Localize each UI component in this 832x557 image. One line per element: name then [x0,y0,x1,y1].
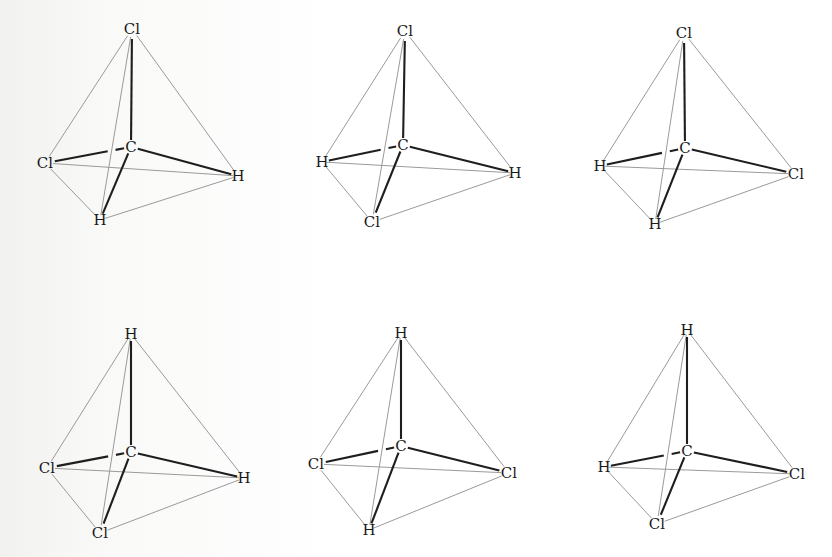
bond-c-left-front [326,451,378,462]
bond-c-top [131,39,132,140]
bond-c-right [692,150,786,172]
atom-label-top: Cl [124,20,140,38]
atom-label-center: C [397,136,408,154]
edge-top-bottom [101,37,131,215]
bond-c-left-front [55,151,108,161]
molecule-2: ClHHClC [315,22,521,231]
atom-label-left: H [315,153,328,171]
bond-c-top [684,43,685,141]
atom-label-left: Cl [39,459,55,477]
bond-c-right [408,448,500,471]
tetrahedra-diagram: ClClHHCClHHClCClHClHCHClHClCHClClHCHHClC… [0,0,832,557]
atom-label-center: C [681,442,692,460]
bond-c-left-back [386,447,394,449]
atom-label-left: H [593,157,606,175]
edge-top-left [51,338,128,461]
bond-c-bottom [661,457,685,514]
atom-label-right: H [237,469,250,487]
edge-top-right [689,39,791,167]
edge-top-bottom [101,339,130,525]
atom-label-left: Cl [308,455,324,473]
atom-label-center: C [679,139,690,157]
edge-left-bottom [321,470,366,526]
atom-label-bottom: Cl [92,524,108,542]
edge-left-bottom [52,474,95,527]
bond-c-bottom [104,459,129,524]
atom-label-right: H [231,167,244,185]
molecule-4: HClHClC [39,325,251,542]
edge-right-bottom [374,476,502,528]
atom-label-left: Cl [37,154,53,172]
atom-label-left: H [597,458,610,476]
edge-right-bottom [380,175,511,220]
atom-label-top: H [680,321,693,339]
molecule-5: HClClHC [308,324,517,539]
edge-top-left [49,36,127,157]
edge-top-left [603,40,680,162]
edge-top-bottom [656,41,683,219]
edge-top-left [325,38,401,158]
edge-right-bottom [105,178,233,219]
atom-label-right: Cl [789,465,805,483]
atom-label-bottom: H [648,215,661,233]
edge-left-right [609,467,789,474]
bond-c-bottom [658,155,683,218]
edge-left-bottom [603,170,651,221]
atom-label-center: C [395,437,406,455]
edge-top-right [134,338,241,474]
atom-label-center: C [125,443,136,461]
atom-label-right: Cl [788,165,804,183]
edge-left-bottom [607,471,651,518]
edge-right-bottom [660,177,789,223]
atom-label-top: Cl [676,24,692,42]
molecule-1: ClClHHC [37,20,245,229]
bond-c-left-front [329,150,381,161]
atom-label-right: Cl [501,464,517,482]
atom-label-bottom: Cl [364,213,380,231]
atom-label-top: H [124,325,137,343]
edge-top-left [607,334,685,462]
edge-right-bottom [665,477,790,522]
bond-c-left-front [57,456,108,466]
bond-c-left-back [389,146,397,148]
edge-top-left [320,337,398,457]
atom-label-top: H [394,324,407,342]
edge-right-bottom [107,480,239,530]
bond-c-bottom [376,151,401,212]
edge-left-bottom [51,169,97,217]
atom-label-top: Cl [397,22,413,40]
molecule-6: HHClClC [597,321,805,533]
edge-top-bottom [373,39,403,214]
atom-label-bottom: H [93,211,106,229]
bond-c-left-back [670,149,678,151]
edge-left-right [324,464,501,472]
bond-c-left-back [116,148,125,150]
edge-left-bottom [325,166,367,216]
bond-c-top [403,41,405,138]
edge-top-right [690,334,792,468]
bond-c-right [694,452,787,472]
edge-top-bottom [370,338,400,525]
atom-label-bottom: Cl [649,515,665,533]
bond-c-left-back [672,452,680,454]
atom-label-right: H [508,164,521,182]
bond-c-left-front [607,153,662,165]
edge-left-right [53,164,233,176]
bond-c-left-back [116,453,124,455]
atom-label-center: C [125,138,136,156]
edge-top-right [410,37,512,169]
edge-top-right [404,337,504,467]
molecule-3: ClHClHC [593,24,804,233]
atom-label-bottom: H [362,521,375,539]
edge-left-right [605,166,788,173]
bond-c-left-front [611,455,664,465]
